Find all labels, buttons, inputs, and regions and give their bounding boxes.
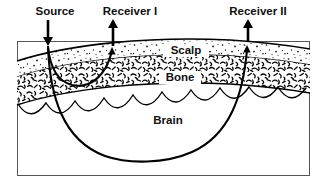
head-cross-section-diagram: Source Receiver I Receiver II Scalp Bone… (0, 0, 326, 189)
label-source: Source (36, 5, 75, 17)
label-scalp-group: Scalp (163, 44, 209, 57)
label-bone-group: Bone (159, 71, 201, 84)
label-receiver-1: Receiver I (103, 5, 157, 17)
label-scalp: Scalp (171, 44, 202, 56)
label-receiver-2: Receiver II (229, 5, 287, 17)
label-bone: Bone (166, 71, 195, 83)
receiver-2-arrow (243, 19, 253, 42)
diagram-canvas: Source Receiver I Receiver II Scalp Bone… (0, 0, 326, 189)
label-brain: Brain (153, 114, 182, 126)
